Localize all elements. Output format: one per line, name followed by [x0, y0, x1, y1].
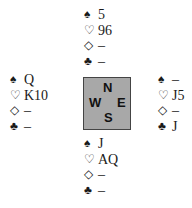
south-spades-cards: J [98, 136, 103, 152]
east-diamonds-cards: – [172, 103, 179, 119]
north-diamonds-cards: – [98, 38, 105, 54]
south-spades-row: ♠ J [84, 136, 118, 152]
east-diamonds-row: ◇ – [158, 103, 184, 119]
diamond-icon: ◇ [10, 103, 24, 119]
heart-icon: ♡ [10, 88, 24, 104]
south-hearts-row: ♡ AQ [84, 152, 118, 168]
east-clubs-cards: J [172, 119, 177, 135]
club-icon: ♣ [84, 183, 98, 199]
heart-icon: ♡ [158, 88, 172, 104]
club-icon: ♣ [84, 54, 98, 70]
west-diamonds-cards: – [24, 103, 31, 119]
spade-icon: ♠ [158, 72, 172, 88]
east-hand: ♠ – ♡ J5 ◇ – ♣ J [158, 72, 184, 134]
club-icon: ♣ [158, 119, 172, 135]
east-clubs-row: ♣ J [158, 119, 184, 135]
west-clubs-row: ♣ – [10, 119, 48, 135]
south-hand: ♠ J ♡ AQ ◇ – ♣ – [84, 136, 118, 198]
west-spades-cards: Q [24, 72, 34, 88]
west-clubs-cards: – [24, 119, 31, 135]
compass-north-label: N [103, 80, 112, 95]
compass-east-label: E [117, 95, 126, 110]
south-hearts-cards: AQ [98, 152, 118, 168]
heart-icon: ♡ [84, 152, 98, 168]
heart-icon: ♡ [84, 23, 98, 39]
east-hearts-row: ♡ J5 [158, 88, 184, 104]
north-hearts-row: ♡ 96 [84, 23, 112, 39]
north-diamonds-row: ◇ – [84, 38, 112, 54]
south-clubs-cards: – [98, 183, 105, 199]
diamond-icon: ◇ [158, 103, 172, 119]
north-spades-row: ♠ 5 [84, 7, 112, 23]
compass-west-label: W [89, 95, 101, 110]
spade-icon: ♠ [10, 72, 24, 88]
east-spades-cards: – [172, 72, 179, 88]
club-icon: ♣ [10, 119, 24, 135]
north-clubs-row: ♣ – [84, 54, 112, 70]
north-hearts-cards: 96 [98, 23, 112, 39]
spade-icon: ♠ [84, 7, 98, 23]
spade-icon: ♠ [84, 136, 98, 152]
west-hearts-row: ♡ K10 [10, 88, 48, 104]
south-diamonds-cards: – [98, 167, 105, 183]
south-diamonds-row: ◇ – [84, 167, 118, 183]
compass-south-label: S [104, 110, 113, 125]
west-diamonds-row: ◇ – [10, 103, 48, 119]
south-clubs-row: ♣ – [84, 183, 118, 199]
west-hearts-cards: K10 [24, 88, 48, 104]
west-spades-row: ♠ Q [10, 72, 48, 88]
north-hand: ♠ 5 ♡ 96 ◇ – ♣ – [84, 7, 112, 69]
diamond-icon: ◇ [84, 38, 98, 54]
west-hand: ♠ Q ♡ K10 ◇ – ♣ – [10, 72, 48, 134]
north-clubs-cards: – [98, 54, 105, 70]
compass-box: N W E S [83, 77, 131, 130]
diamond-icon: ◇ [84, 167, 98, 183]
east-hearts-cards: J5 [172, 88, 184, 104]
east-spades-row: ♠ – [158, 72, 184, 88]
north-spades-cards: 5 [98, 7, 105, 23]
